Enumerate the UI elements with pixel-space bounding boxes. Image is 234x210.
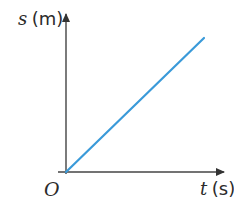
x-axis-variable: t [200,178,207,199]
y-axis-unit: (m) [32,8,64,29]
y-axis-variable: s [18,8,27,29]
data-line [66,38,204,172]
origin-label: O [44,180,60,199]
y-axis-label: s (m) [18,10,63,28]
displacement-time-chart [0,0,234,210]
x-axis-unit: (s) [212,178,234,199]
x-axis-label: t (s) [200,180,234,198]
